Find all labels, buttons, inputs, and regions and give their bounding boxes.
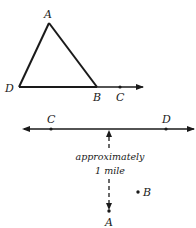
segment-ab xyxy=(49,23,97,87)
up-arrowhead-icon xyxy=(106,130,112,137)
point-c-dot xyxy=(118,85,121,88)
label-b: B xyxy=(92,91,101,104)
label-a: A xyxy=(43,8,52,21)
distance-label-line2: 1 mile xyxy=(95,165,125,176)
label-a: A xyxy=(104,216,113,228)
label-b: B xyxy=(142,186,151,199)
line-distance-figure: C D approximately 1 mile A B xyxy=(22,113,195,228)
geometry-figures: A D B C C D approximately 1 mile A B xyxy=(0,0,196,228)
left-arrowhead-icon xyxy=(22,126,30,132)
point-b-dot xyxy=(136,190,139,193)
label-d: D xyxy=(161,113,171,126)
segment-da xyxy=(19,23,49,87)
right-arrowhead-icon xyxy=(187,126,195,132)
point-c-dot xyxy=(49,127,52,130)
down-arrowhead-icon xyxy=(106,203,112,210)
triangle-figure: A D B C xyxy=(4,8,143,104)
label-c: C xyxy=(47,113,56,126)
point-a-dot xyxy=(107,209,110,212)
label-c: C xyxy=(116,91,125,104)
label-d: D xyxy=(4,82,14,95)
point-d-dot xyxy=(164,127,167,130)
distance-label-line1: approximately xyxy=(75,151,145,162)
